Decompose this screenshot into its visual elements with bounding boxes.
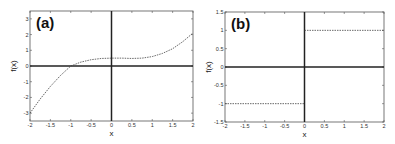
x-tick-label: -2	[28, 122, 33, 128]
y-tick-label: -3	[24, 110, 29, 116]
x-tick-label: -0.5	[280, 123, 289, 129]
x-tick-label: 0.5	[128, 122, 136, 128]
x-tick-label: 2	[382, 123, 385, 129]
y-tick-label: 0.5	[216, 46, 224, 52]
x-tick-label: 2	[191, 122, 194, 128]
y-tick-label: 1	[25, 47, 28, 53]
x-axis-label: x	[110, 129, 114, 138]
y-tick-label: 2	[25, 32, 28, 38]
y-tick-label: -1	[24, 79, 29, 85]
y-tick-label: -1.5	[214, 119, 223, 125]
y-tick-label: -2	[24, 94, 29, 100]
y-tick-label: 1.5	[216, 9, 224, 15]
y-tick-label: 3	[25, 16, 28, 22]
y-axis-label: f(x)	[9, 60, 18, 72]
x-tick-label: 0	[110, 122, 113, 128]
x-tick-label: 0	[303, 123, 306, 129]
y-tick-label: 1	[220, 27, 223, 33]
x-tick-label: 1.5	[169, 122, 177, 128]
x-tick-label: 1	[151, 122, 154, 128]
y-tick-label: -1	[219, 101, 224, 107]
figure: -2-1.5-1-0.500.511.52-3-2-10123xf(x)(a)-…	[0, 0, 395, 144]
x-tick-label: -1.5	[240, 123, 249, 129]
x-tick-label: -1	[262, 123, 267, 129]
x-tick-label: -1	[68, 122, 73, 128]
y-tick-label: 0	[220, 64, 223, 70]
y-tick-label: 0	[25, 63, 28, 69]
y-axis-label: f(x)	[204, 61, 213, 73]
x-tick-label: 1	[343, 123, 346, 129]
y-tick-label: -0.5	[214, 82, 223, 88]
x-tick-label: -0.5	[86, 122, 95, 128]
chart-panel-b: -2-1.5-1-0.500.511.52-1.5-1-0.500.511.5x…	[204, 9, 386, 139]
x-tick-label: 0.5	[321, 123, 329, 129]
x-axis-label: x	[303, 130, 307, 139]
panel-label: (a)	[36, 14, 54, 31]
chart-panel-a: -2-1.5-1-0.500.511.52-3-2-10123xf(x)(a)	[9, 11, 195, 138]
panel-label: (b)	[231, 15, 250, 32]
x-tick-label: -1.5	[46, 122, 55, 128]
x-tick-label: 1.5	[360, 123, 368, 129]
